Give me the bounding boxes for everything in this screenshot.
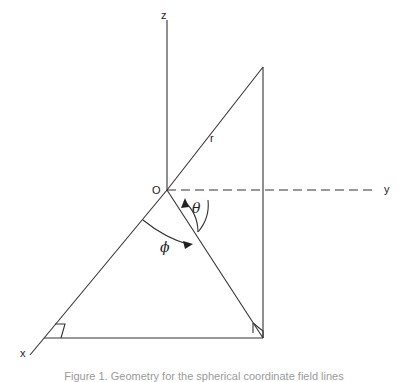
right-angle-marker-x [55, 324, 65, 338]
x-axis-label: x [20, 348, 26, 359]
theta-label: θ [192, 201, 200, 215]
theta-arrowhead [181, 198, 189, 208]
y-axis-label: y [384, 184, 390, 195]
phi-arrowhead [183, 241, 193, 249]
r-vector [167, 67, 263, 190]
x-axis [30, 190, 167, 355]
phi-label: ϕ [160, 240, 170, 254]
z-axis-label: z [161, 10, 167, 21]
origin-label: O [152, 185, 161, 196]
figure-caption: Figure 1. Geometry for the spherical coo… [0, 370, 408, 382]
xy-projection [167, 190, 263, 338]
r-label: r [210, 133, 214, 144]
